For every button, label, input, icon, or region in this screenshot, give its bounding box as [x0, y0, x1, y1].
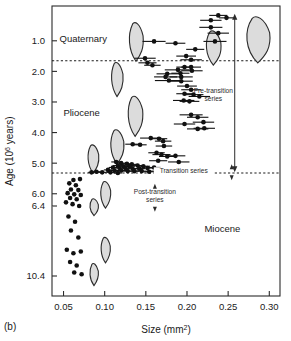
data-point: [65, 191, 70, 196]
x-tick-label-0.15: 0.15: [137, 301, 156, 312]
y-tick-label-3.0: 3.0: [32, 96, 45, 107]
data-point: [193, 47, 198, 52]
x-tick-label-0.25: 0.25: [219, 301, 238, 312]
data-point: [150, 63, 155, 68]
annotation-quaternary: Quaternary: [60, 33, 108, 44]
data-point: [74, 197, 79, 202]
data-point: [139, 169, 144, 174]
data-point: [182, 91, 187, 96]
data-point: [202, 126, 207, 131]
x-tick-label-0.10: 0.10: [95, 301, 114, 312]
annotation-pre-transition-series-line2: series: [205, 95, 223, 102]
data-point: [64, 200, 69, 205]
data-point: [190, 68, 195, 73]
data-point: [167, 78, 172, 83]
data-point: [143, 56, 148, 61]
data-point: [197, 94, 202, 99]
data-point: [156, 158, 161, 163]
data-point: [173, 41, 178, 46]
annotation-miocene: Miocene: [204, 223, 240, 234]
data-point: [79, 272, 84, 277]
data-point: [187, 99, 192, 104]
data-point: [145, 61, 150, 66]
data-point: [162, 144, 167, 149]
annotation-post-transition-series-line2: series: [146, 196, 164, 203]
data-point: [157, 136, 162, 141]
data-point: [116, 171, 121, 176]
data-point: [79, 249, 84, 254]
x-axis-title-base: Size (mm: [141, 324, 183, 335]
y-tick-label-5.0: 5.0: [32, 158, 45, 169]
data-point: [72, 270, 77, 275]
data-point: [79, 193, 84, 198]
data-point: [74, 183, 79, 188]
data-point: [94, 169, 99, 174]
data-point: [201, 120, 206, 125]
y-tick-label-4.0: 4.0: [32, 127, 45, 138]
data-point: [138, 143, 143, 148]
data-point: [176, 160, 181, 165]
data-point: [66, 214, 71, 219]
data-point: [132, 169, 137, 174]
data-point: [73, 219, 78, 224]
data-point: [216, 31, 221, 36]
y-axis-title: Age (106 years): [4, 117, 15, 187]
y-axis-title-base: Age (10: [4, 151, 15, 186]
data-point: [67, 181, 72, 186]
data-point: [108, 170, 113, 175]
data-point: [182, 122, 187, 127]
data-point: [72, 192, 77, 197]
data-point: [184, 54, 189, 59]
data-point: [70, 202, 75, 207]
figure-background: [0, 0, 291, 341]
data-point: [179, 75, 184, 80]
y-tick-label-6.0: 6.0: [32, 188, 45, 199]
figure-panel-b: 1.02.03.04.05.06.06.410.4 0.050.100.150.…: [0, 0, 291, 341]
y-tick-label-6.4: 6.4: [32, 200, 45, 211]
data-point: [189, 113, 194, 118]
data-point: [185, 84, 190, 89]
data-point: [189, 87, 194, 92]
data-point: [195, 127, 200, 132]
data-point: [161, 139, 166, 144]
data-point: [71, 251, 76, 256]
data-point: [209, 18, 214, 23]
data-point: [195, 115, 200, 120]
data-point: [125, 169, 130, 174]
data-point: [148, 136, 153, 141]
y-tick-label-1.0: 1.0: [32, 35, 45, 46]
data-point: [89, 170, 94, 175]
data-point: [165, 154, 170, 159]
x-axis-title-tail: ): [187, 324, 190, 335]
data-point: [65, 247, 70, 252]
x-tick-label-0.05: 0.05: [54, 301, 73, 312]
data-point: [76, 188, 81, 193]
data-point: [68, 260, 73, 265]
data-point: [173, 154, 178, 159]
data-point: [213, 39, 218, 44]
data-point: [224, 16, 229, 21]
data-point: [78, 177, 83, 182]
data-point: [68, 196, 73, 201]
x-tick-label-0.30: 0.30: [260, 301, 279, 312]
data-point: [69, 187, 74, 192]
x-tick-label-0.20: 0.20: [178, 301, 197, 312]
annotation-pre-transition-series-line1: Pre-transition: [194, 87, 234, 94]
panel-label: (b): [4, 321, 16, 332]
data-point: [209, 25, 214, 30]
data-point: [152, 39, 157, 44]
data-point: [71, 178, 76, 183]
data-point: [74, 263, 79, 268]
data-point: [100, 170, 105, 175]
data-point: [76, 235, 81, 240]
annotation-pliocene: Pliocene: [63, 107, 99, 118]
data-point: [147, 169, 152, 174]
data-point: [130, 142, 135, 147]
data-point: [163, 75, 168, 80]
y-axis-title-tail: years): [4, 117, 15, 148]
y-tick-label-2.0: 2.0: [32, 66, 45, 77]
annotation-transition-series: Transition series: [160, 167, 209, 174]
data-point: [189, 57, 194, 62]
data-point: [69, 228, 74, 233]
data-point: [216, 13, 221, 18]
